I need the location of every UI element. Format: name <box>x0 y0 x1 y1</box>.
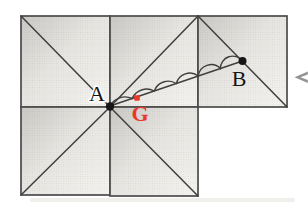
point-a-dot <box>106 102 114 110</box>
point-b-dot <box>239 57 247 65</box>
label-g: G <box>131 101 148 126</box>
label-b: B <box>232 66 247 91</box>
scan-shadow <box>30 198 295 202</box>
diagram-canvas: A B G <box>0 0 308 212</box>
label-a: A <box>89 81 105 106</box>
unfolded-squares-figure: A B G <box>0 0 308 212</box>
point-g-dot <box>134 95 140 101</box>
left-arrow-icon <box>295 72 308 83</box>
